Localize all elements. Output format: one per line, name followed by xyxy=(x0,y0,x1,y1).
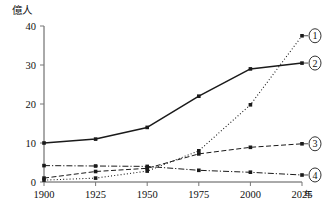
y-tick-label: 10 xyxy=(26,138,37,149)
y-tick-label: 30 xyxy=(26,60,37,71)
data-point-2-2000 xyxy=(249,67,253,71)
legend-badge-1[interactable]: 1 xyxy=(302,29,321,43)
y-tick-label: 20 xyxy=(26,99,37,110)
series-line-3 xyxy=(44,144,302,178)
marker-layer xyxy=(42,34,304,182)
data-point-2-1900 xyxy=(42,141,46,145)
data-point-2-1950 xyxy=(145,126,149,130)
x-tick-label: 1925 xyxy=(85,189,106,200)
data-point-3-2000 xyxy=(249,146,253,150)
data-point-4-1925 xyxy=(94,164,98,168)
chart-canvas: 億人 010203040 190019251950197520002025 12… xyxy=(0,0,325,212)
legend-label: 4 xyxy=(313,170,318,181)
data-point-2-1975 xyxy=(197,94,201,98)
legend-label: 2 xyxy=(313,58,318,69)
x-axis-ticks: 190019251950197520002025 xyxy=(34,182,313,200)
data-point-1-1975 xyxy=(197,149,201,153)
data-point-3-1975 xyxy=(197,152,201,156)
y-tick-label: 40 xyxy=(26,21,37,32)
x-axis-unit-label: 年 xyxy=(304,189,313,199)
legend-badge-3[interactable]: 3 xyxy=(302,137,321,151)
data-point-1-1925 xyxy=(94,176,98,180)
data-point-4-1975 xyxy=(197,169,201,173)
data-point-3-1900 xyxy=(42,176,46,180)
x-tick-label: 2000 xyxy=(240,189,261,200)
data-point-1-2000 xyxy=(249,103,253,107)
x-tick-label: 1975 xyxy=(188,189,209,200)
series-line-2 xyxy=(44,63,302,143)
data-point-3-1925 xyxy=(94,170,98,174)
series-line-1 xyxy=(44,36,302,180)
data-point-4-2000 xyxy=(249,170,253,174)
series-layer xyxy=(44,36,302,180)
y-axis-ticks: 010203040 xyxy=(26,21,45,188)
legend-badge-4[interactable]: 4 xyxy=(302,168,321,182)
legend-badge-2[interactable]: 2 xyxy=(302,56,321,70)
x-tick-label: 1900 xyxy=(34,189,55,200)
legend-label: 1 xyxy=(313,30,318,41)
y-tick-label: 0 xyxy=(31,177,36,188)
population-line-chart: 億人 010203040 190019251950197520002025 12… xyxy=(0,0,325,212)
legend-label: 3 xyxy=(313,138,318,149)
data-point-4-1950 xyxy=(145,165,149,169)
y-axis-unit-label: 億人 xyxy=(12,4,33,16)
data-point-2-1925 xyxy=(94,137,98,141)
legend-layer: 1234 xyxy=(302,29,321,182)
data-point-4-1900 xyxy=(42,164,46,168)
x-tick-label: 1950 xyxy=(137,189,158,200)
